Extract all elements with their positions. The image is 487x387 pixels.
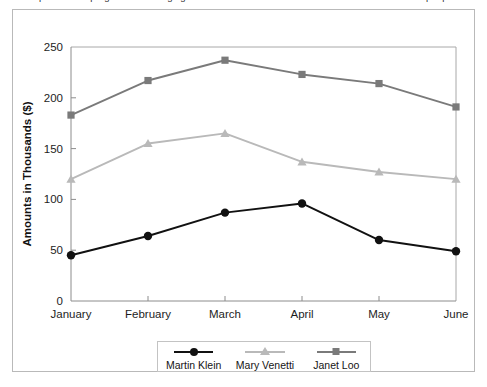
data-point-marker	[144, 77, 151, 84]
figure-frame: 050100150200250JanuaryFebruaryMarchApril…	[12, 9, 475, 372]
x-tick-label: February	[125, 308, 171, 320]
x-tick-label: March	[209, 308, 241, 320]
legend-marker-triangle-icon	[260, 347, 270, 355]
legend-swatch	[317, 345, 356, 358]
series-line-martin-klein	[71, 203, 456, 255]
data-point-marker	[452, 247, 460, 255]
legend-entry-martin-klein[interactable]: Martin Klein	[158, 345, 229, 371]
data-point-marker	[67, 111, 74, 118]
legend-label: Martin Klein	[158, 359, 229, 371]
data-point-marker	[452, 103, 459, 110]
chart-legend: Martin KleinMary VenettiJanet Loo	[157, 341, 371, 372]
series-line-mary-venetti	[71, 133, 456, 179]
y-tick-label: 200	[44, 92, 63, 104]
y-tick-label: 250	[44, 41, 63, 53]
legend-marker-square-icon	[333, 348, 340, 355]
legend-swatch	[174, 345, 213, 358]
data-point-marker	[221, 208, 229, 216]
x-tick-label: June	[444, 308, 469, 320]
legend-label: Janet Loo	[301, 359, 372, 371]
y-tick-label: 100	[44, 193, 63, 205]
data-point-marker	[298, 199, 306, 207]
data-point-marker	[66, 175, 75, 183]
x-tick-label: April	[290, 308, 313, 320]
y-tick-label: 0	[57, 295, 63, 307]
chart-svg: 050100150200250JanuaryFebruaryMarchApril…	[13, 10, 476, 373]
legend-entry-mary-venetti[interactable]: Mary Venetti	[229, 345, 300, 371]
legend-swatch	[245, 345, 284, 358]
data-point-marker	[144, 232, 152, 240]
clipped-header-text: a spreadsheet program for managing numbe…	[26, 0, 455, 2]
data-point-marker	[375, 80, 382, 87]
x-tick-label: May	[368, 308, 390, 320]
x-tick-label: January	[51, 308, 92, 320]
y-tick-label: 150	[44, 143, 63, 155]
data-point-marker	[375, 236, 383, 244]
legend-marker-circle-icon	[190, 348, 198, 356]
series-line-janet-loo	[71, 60, 456, 115]
data-point-marker	[298, 71, 305, 78]
y-axis-title: Amounts in Thousands ($)	[21, 101, 33, 246]
clipped-header-strip: a spreadsheet program for managing numbe…	[0, 0, 487, 8]
legend-label: Mary Venetti	[229, 359, 300, 371]
data-point-marker	[221, 57, 228, 64]
y-tick-label: 50	[50, 244, 63, 256]
data-point-marker	[67, 251, 75, 259]
line-chart: 050100150200250JanuaryFebruaryMarchApril…	[13, 10, 476, 373]
legend-entry-janet-loo[interactable]: Janet Loo	[301, 345, 372, 371]
